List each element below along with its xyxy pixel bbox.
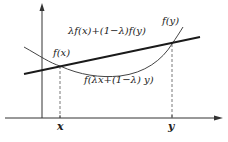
label-y-tick: y [168, 121, 174, 132]
diagram-svg [0, 0, 228, 142]
label-x-tick: x [57, 121, 64, 132]
y-axis-arrow-icon [40, 3, 45, 11]
label-f-x: f(x) [53, 48, 70, 58]
secant-line [24, 37, 200, 74]
x-axis-arrow-icon [214, 116, 223, 121]
label-f-y: f(y) [162, 16, 179, 26]
label-curve-point: f(λx+(1−λ) y) [84, 75, 154, 85]
convexity-diagram: f(x) f(y) λf(x)+(1−λ)f(y) f(λx+(1−λ) y) … [0, 0, 228, 142]
label-secant: λf(x)+(1−λ)f(y) [68, 26, 146, 36]
